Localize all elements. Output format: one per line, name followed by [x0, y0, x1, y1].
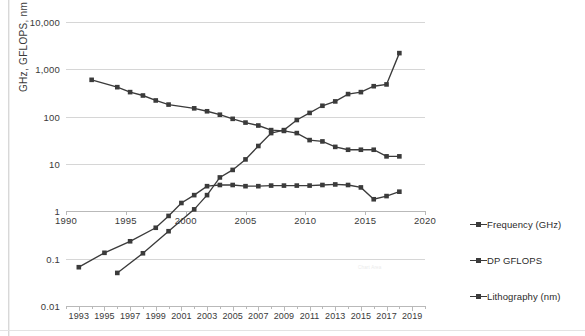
data-point-marker — [294, 131, 299, 136]
primary-axis-tick — [425, 306, 426, 309]
data-point-marker — [192, 106, 197, 111]
data-point-marker — [307, 183, 312, 188]
primary-axis-tick-label: 1997 — [120, 311, 140, 321]
chart-container: GHz, GFLOPS, nm 10,0001,0001001010.10.01… — [0, 0, 460, 336]
primary-axis-tick-label: 2009 — [274, 311, 294, 321]
data-point-marker — [115, 271, 120, 276]
data-point-marker — [128, 239, 133, 244]
data-point-marker — [192, 193, 197, 198]
data-point-marker — [243, 184, 248, 189]
data-point-marker — [153, 98, 158, 103]
data-point-marker — [346, 92, 351, 97]
data-point-marker — [256, 144, 261, 149]
data-point-marker — [384, 154, 389, 159]
data-point-marker — [282, 183, 287, 188]
y-tick-label: 10,000 — [30, 17, 60, 28]
primary-axis-tick-label: 1995 — [94, 311, 114, 321]
data-point-marker — [102, 251, 107, 256]
data-point-marker — [256, 123, 261, 128]
data-point-marker — [115, 85, 120, 90]
primary-axis-tick — [220, 306, 221, 309]
data-point-marker — [320, 103, 325, 108]
primary-axis-tick-label: 1999 — [146, 311, 166, 321]
legend-item-lithography[interactable]: Lithography (nm) — [470, 290, 585, 302]
primary-axis-tick — [117, 306, 118, 309]
data-point-marker — [359, 147, 364, 152]
primary-axis-tick — [374, 306, 375, 309]
series-line-dp-gflops — [117, 53, 399, 273]
chart-page: GHz, GFLOPS, nm 10,0001,0001001010.10.01… — [0, 0, 585, 336]
y-tick-label: 0.1 — [46, 253, 60, 264]
primary-axis-tick — [246, 306, 247, 309]
legend-label: Lithography (nm) — [487, 291, 560, 302]
data-point-marker — [205, 184, 210, 189]
data-point-marker — [359, 185, 364, 190]
legend-item-dp-gflops[interactable]: DP GFLOPS — [470, 254, 585, 266]
primary-axis-tick — [66, 306, 67, 309]
data-point-marker — [294, 183, 299, 188]
data-point-marker — [346, 183, 351, 188]
y-tick-label: 1,000 — [35, 64, 60, 75]
y-axis-title: GHz, GFLOPS, nm — [18, 2, 29, 92]
data-point-marker — [269, 183, 274, 188]
data-point-marker — [166, 102, 171, 107]
data-point-marker — [166, 229, 171, 234]
data-point-marker — [166, 214, 171, 219]
data-series-layer — [66, 22, 425, 306]
data-point-marker — [218, 112, 223, 117]
data-point-marker — [141, 251, 146, 256]
legend-item-frequency[interactable]: Frequency (GHz) — [470, 218, 585, 230]
data-point-marker — [307, 111, 312, 116]
primary-axis-tick — [399, 306, 400, 309]
chart-legend: Frequency (GHz) DP GFLOPS Lithography (n… — [470, 218, 585, 326]
primary-axis-tick-label: 2019 — [402, 311, 422, 321]
primary-axis-tick — [92, 306, 93, 309]
data-point-marker — [397, 154, 402, 159]
primary-axis-tick — [169, 306, 170, 309]
data-point-marker — [294, 118, 299, 123]
primary-axis-tick-label: 2005 — [222, 311, 242, 321]
data-point-marker — [141, 93, 146, 98]
y-tick-label: 10 — [49, 159, 60, 170]
data-point-marker — [371, 84, 376, 89]
legend-label: DP GFLOPS — [487, 255, 542, 266]
data-point-marker — [218, 175, 223, 180]
data-point-marker — [307, 138, 312, 143]
data-point-marker — [359, 90, 364, 95]
data-point-marker — [179, 201, 184, 206]
legend-label: Frequency (GHz) — [487, 219, 561, 230]
data-point-marker — [282, 129, 287, 134]
y-tick-label: 100 — [44, 111, 60, 122]
data-point-marker — [230, 117, 235, 122]
data-point-marker — [218, 183, 223, 188]
primary-axis-tick — [322, 306, 323, 309]
chart-area-watermark: Chart Area — [358, 265, 382, 270]
data-point-marker — [371, 197, 376, 202]
data-point-marker — [371, 147, 376, 152]
data-point-marker — [128, 90, 133, 95]
data-point-marker — [333, 145, 338, 150]
data-point-marker — [320, 183, 325, 188]
data-point-marker — [243, 157, 248, 162]
legend-marker-icon — [470, 291, 487, 301]
plot-area: 10,0001,0001001010.10.01 199019952000200… — [66, 22, 425, 306]
y-tick-label: 0.01 — [41, 301, 60, 312]
data-point-marker — [269, 128, 274, 133]
data-point-marker — [397, 189, 402, 194]
data-point-marker — [89, 78, 94, 83]
series-line-frequency-ghz — [79, 184, 400, 267]
primary-axis-tick — [194, 306, 195, 309]
primary-axis-tick-label: 2001 — [171, 311, 191, 321]
data-point-marker — [384, 82, 389, 87]
primary-axis-tick — [348, 306, 349, 309]
data-point-marker — [320, 139, 325, 144]
data-point-marker — [205, 193, 210, 198]
primary-axis-tick-label: 2015 — [351, 311, 371, 321]
data-point-marker — [230, 168, 235, 173]
data-point-marker — [384, 194, 389, 199]
primary-axis-tick-label: 2011 — [300, 311, 320, 321]
primary-axis-tick-label: 1993 — [69, 311, 89, 321]
series-line-lithography-nm — [92, 80, 400, 157]
data-point-marker — [346, 147, 351, 152]
primary-axis-tick — [143, 306, 144, 309]
